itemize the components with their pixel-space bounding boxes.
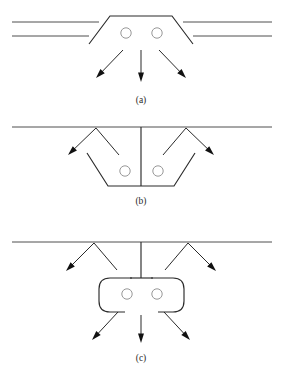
capsule-body-right [151, 278, 184, 312]
arrow-down-left [96, 50, 123, 78]
figure-root: (a)(b)(c) [0, 0, 283, 376]
three-panel-line-diagram: (a)(b)(c) [0, 0, 283, 376]
vee-right [163, 128, 214, 155]
hole-right [152, 28, 162, 38]
hole-right [152, 289, 162, 299]
panel-caption-c: (c) [136, 353, 147, 364]
vee-left-arrow-branch [68, 128, 96, 155]
vee-right-plain-branch [163, 128, 186, 155]
panel-c: (c) [12, 242, 272, 364]
vee-left-arrow-branch-shaft [72, 243, 94, 265]
vee-left-arrow-branch [66, 243, 94, 271]
panel-a: (a) [12, 16, 272, 106]
vee-right [165, 243, 216, 271]
arrow-down-center [138, 50, 144, 82]
vee-left-arrow-branch-shaft [74, 128, 96, 149]
vee-right-arrow-branch-shaft [188, 243, 210, 265]
hole-right [153, 166, 163, 176]
capsule-body-left [99, 278, 132, 312]
arrow-down-center-head [138, 73, 144, 83]
arrow-down-left-shaft [102, 50, 123, 72]
body-outline [89, 16, 193, 44]
arrow-down-right [164, 312, 190, 340]
vee-right-plain-branch [165, 243, 188, 270]
hole-left [120, 166, 130, 176]
hole-left [122, 289, 132, 299]
vee-right-arrow-branch [188, 243, 216, 271]
vee-left [66, 243, 117, 271]
vee-left-plain-branch [96, 128, 119, 155]
arrow-down-right [159, 50, 186, 78]
panel-caption-b: (b) [135, 196, 146, 207]
vee-right-arrow-branch [186, 128, 214, 155]
panel-caption-a: (a) [136, 95, 147, 106]
arrow-down-left-shaft [97, 312, 118, 334]
arrow-down-left [92, 312, 118, 340]
arrow-down-center-head [138, 334, 144, 344]
panel-b: (b) [12, 127, 272, 207]
arrow-down-center [138, 315, 144, 343]
arrow-down-right-shaft [159, 50, 180, 72]
vee-left [68, 128, 119, 155]
vee-right-arrow-branch-shaft [186, 128, 208, 149]
hole-left [121, 28, 131, 38]
arrow-down-right-shaft [164, 312, 185, 334]
vee-left-plain-branch [94, 243, 117, 270]
